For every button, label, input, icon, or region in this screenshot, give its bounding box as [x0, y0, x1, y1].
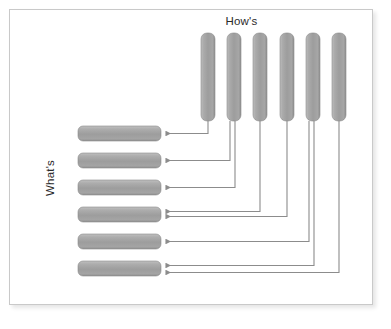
hows-bar-3 — [253, 33, 267, 121]
whats-bar-6 — [78, 261, 161, 276]
connector-how1-what1 — [166, 121, 208, 134]
whats-bar-1 — [78, 126, 161, 141]
hows-bar-2 — [227, 33, 241, 121]
hows-bar-1 — [201, 33, 215, 121]
connector-how4-what4 — [166, 121, 287, 217]
hows-bar-6 — [332, 33, 346, 121]
connector-how5-what6 — [166, 121, 314, 266]
connector-how6-what6 — [166, 121, 339, 273]
figure-canvas: How's What's — [0, 0, 391, 329]
connector-how2-what2 — [166, 121, 230, 161]
hows-axis-label: How's — [0, 15, 391, 27]
hows-bar-group — [201, 33, 346, 121]
whats-bar-group — [78, 126, 161, 276]
hows-bar-4 — [280, 33, 294, 121]
whats-bar-2 — [78, 153, 161, 168]
hows-bar-5 — [306, 33, 320, 121]
whats-bar-3 — [78, 180, 161, 195]
connector-group — [166, 121, 339, 273]
connector-how2-what3 — [166, 121, 235, 188]
connector-how3-what4 — [166, 121, 260, 212]
diagram-graphics — [0, 0, 391, 329]
whats-bar-5 — [78, 234, 161, 249]
whats-axis-label: What's — [44, 160, 56, 196]
whats-bar-4 — [78, 207, 161, 222]
